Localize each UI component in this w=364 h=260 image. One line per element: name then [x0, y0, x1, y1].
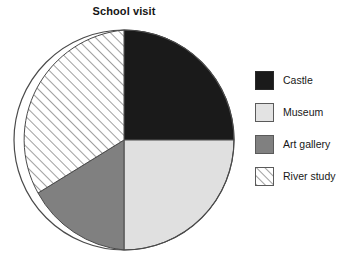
pie-slice-museum[interactable] [124, 140, 234, 250]
legend-label-art-gallery: Art gallery [283, 138, 330, 150]
hatched-swatch-icon [255, 167, 274, 186]
chart-legend: Castle Museum Art gallery River study [255, 64, 364, 192]
pie-chart-figure: School visit [0, 0, 364, 260]
legend-item-river-study[interactable]: River study [255, 160, 364, 192]
legend-item-art-gallery[interactable]: Art gallery [255, 128, 364, 160]
pie-svg [0, 22, 248, 260]
legend-label-river-study: River study [283, 170, 336, 182]
mid-gray-swatch-icon [255, 135, 274, 154]
chart-title: School visit [0, 4, 248, 18]
legend-label-castle: Castle [283, 74, 313, 86]
pie-plot-area [0, 22, 248, 260]
black-swatch-icon [255, 71, 274, 90]
legend-label-museum: Museum [283, 106, 323, 118]
light-gray-swatch-icon [255, 103, 274, 122]
legend-item-castle[interactable]: Castle [255, 64, 364, 96]
legend-item-museum[interactable]: Museum [255, 96, 364, 128]
pie-slice-castle[interactable] [124, 30, 234, 140]
